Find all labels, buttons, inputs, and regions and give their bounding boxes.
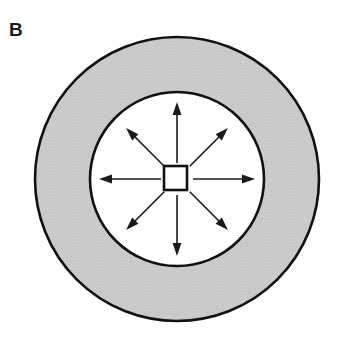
figure-panel: B [0,0,346,343]
center-square [164,166,187,190]
concentric-arrow-diagram [0,0,346,343]
